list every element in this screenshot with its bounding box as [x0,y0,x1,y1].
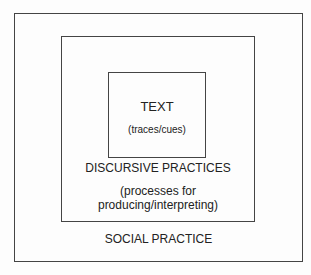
discursive-practices-sublabel-1: (processes for [61,184,255,198]
text-sublabel: (traces/cues) [108,124,206,135]
text-label: TEXT [108,99,206,114]
social-practice-label: SOCIAL PRACTICE [14,232,303,246]
text-box [108,72,206,158]
discursive-practices-label: DISCURSIVE PRACTICES [61,161,255,175]
discursive-practices-sublabel-2: producing/interpreting) [61,198,255,212]
